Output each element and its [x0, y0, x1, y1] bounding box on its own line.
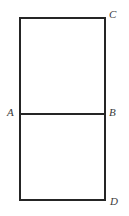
vertex-label-b: B — [109, 107, 116, 118]
vertex-label-a: A — [7, 107, 14, 118]
vertex-label-c: C — [109, 9, 116, 20]
geometry-figure: C A B D — [0, 0, 129, 216]
outer-rectangle — [20, 18, 105, 200]
vertex-label-d: D — [110, 196, 118, 207]
